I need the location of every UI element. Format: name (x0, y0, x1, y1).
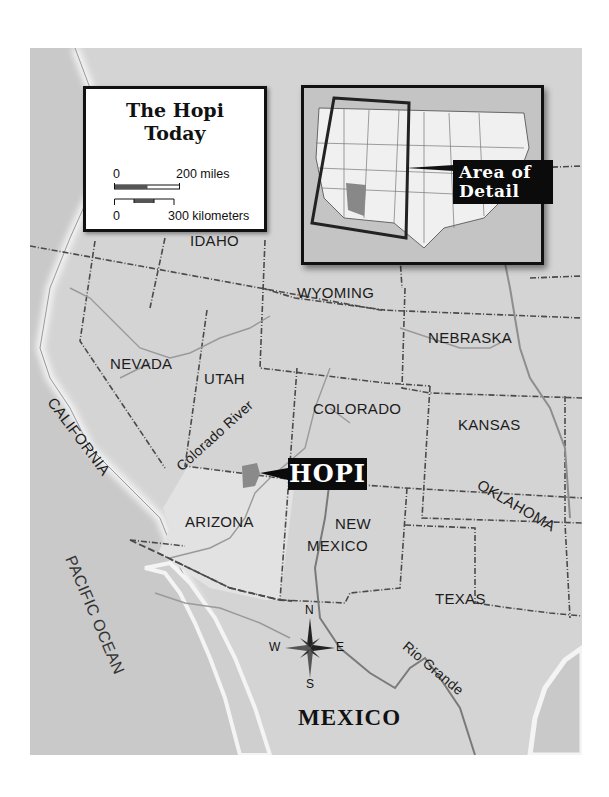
scale-miles-start: 0 (113, 167, 120, 181)
scale-km-end: 300 kilometers (168, 209, 249, 223)
label-nevada: NEVADA (110, 355, 172, 372)
gulf-of-mexico (530, 648, 582, 755)
area-of-detail-line2: Detail (459, 182, 553, 201)
label-arizona: ARIZONA (185, 513, 254, 530)
legend-title-line1: The Hopi (86, 99, 264, 122)
area-of-detail-callout: Area of Detail (453, 160, 553, 204)
legend-title: The Hopi Today (86, 99, 264, 145)
hopi-callout: HOPI (288, 458, 367, 490)
compass-west: W (269, 640, 280, 654)
label-mexico: MEXICO (298, 705, 401, 731)
area-of-detail-line1: Area of (459, 163, 553, 182)
compass-south: S (306, 677, 314, 691)
compass-rose: N S E W (270, 613, 350, 683)
compass-east: E (336, 640, 344, 654)
label-nebraska: NEBRASKA (428, 329, 512, 346)
map-legend: The Hopi Today 0 200 miles 0 300 kilomet… (83, 86, 267, 232)
missouri-river (500, 238, 570, 518)
label-new-mexico-line1: NEW (335, 515, 371, 532)
label-wyoming: WYOMING (297, 284, 374, 301)
map-canvas: IDAHO WYOMING NEBRASKA NEVADA UTAH COLOR… (30, 48, 582, 755)
label-utah: UTAH (204, 370, 245, 387)
scale-bar-icon (114, 183, 184, 211)
scale-miles-end: 200 miles (176, 167, 230, 181)
label-idaho: IDAHO (190, 232, 239, 249)
scale-km-start: 0 (113, 209, 120, 223)
label-texas: TEXAS (435, 590, 486, 607)
compass-north: N (305, 603, 314, 617)
label-new-mexico-line2: MEXICO (307, 537, 368, 554)
label-colorado: COLORADO (313, 400, 401, 417)
label-kansas: KANSAS (458, 416, 521, 433)
legend-title-line2: Today (86, 122, 264, 145)
